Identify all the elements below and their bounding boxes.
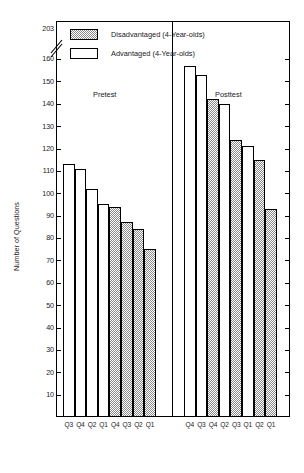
- bar: [184, 66, 196, 417]
- bar: [109, 207, 121, 417]
- bar: [265, 209, 277, 417]
- bar: [98, 204, 110, 417]
- y-tick-label: 90: [24, 212, 54, 219]
- x-axis-labels: Q3Q4Q2Q1Q4Q3Q2Q1Q4Q3Q4Q2Q3Q1Q2Q1: [56, 421, 290, 435]
- x-tick-label: Q1: [141, 421, 159, 428]
- bar: [219, 104, 231, 417]
- bar: [75, 169, 87, 417]
- x-tick-label: Q1: [262, 421, 280, 428]
- bar: [121, 222, 133, 417]
- bar: [86, 189, 98, 417]
- y-tick-label: 140: [24, 100, 54, 107]
- y-tick-label: 10: [24, 391, 54, 398]
- y-tick-label: 150: [24, 78, 54, 85]
- y-tick-label: 20: [24, 369, 54, 376]
- y-tick-label: 120: [24, 145, 54, 152]
- y-tick-label: 40: [24, 324, 54, 331]
- y-tick-label: 80: [24, 234, 54, 241]
- y-tick-label: 70: [24, 257, 54, 264]
- y-tick-label: 110: [24, 167, 54, 174]
- chart-container: Number of Questions 20316015014013012011…: [0, 0, 304, 473]
- y-tick-label: 30: [24, 346, 54, 353]
- y-tick-label: 130: [24, 123, 54, 130]
- bars-layer: [56, 21, 290, 417]
- bar: [242, 146, 254, 417]
- bar: [230, 140, 242, 417]
- y-tick-label: 100: [24, 190, 54, 197]
- bar: [144, 249, 156, 417]
- bar: [133, 229, 145, 417]
- y-tick-label: 203: [24, 25, 54, 32]
- bar: [254, 160, 266, 417]
- y-tick-label: 50: [24, 302, 54, 309]
- bar: [63, 164, 75, 417]
- y-tick-label: 60: [24, 279, 54, 286]
- bar: [207, 99, 219, 417]
- y-axis-ticks: 2031601501401301201101009080706050403020…: [14, 0, 54, 473]
- bar: [196, 75, 208, 417]
